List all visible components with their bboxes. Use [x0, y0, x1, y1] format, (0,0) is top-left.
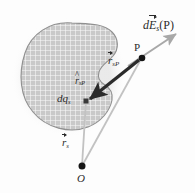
vector-arrow-icon [149, 15, 156, 16]
separation-vector-r: r [108, 54, 112, 66]
vector-arrow-icon [62, 134, 66, 135]
origin-label: O [77, 173, 85, 184]
physics-figure: dEs(P) P rsP ^rsP dqs rs O [0, 0, 195, 193]
source-position-r: r [62, 136, 66, 148]
point-P-label: P [134, 42, 140, 53]
charge-element-subscript: s [68, 98, 71, 105]
separation-vector-r-with-arrow: r [108, 55, 112, 66]
vector-arrow-icon [108, 52, 112, 53]
field-vector-E-with-arrow: E [149, 19, 156, 31]
unit-vector-r-with-hat: ^r [75, 76, 79, 86]
separation-vector-subscript: sP [112, 60, 119, 67]
source-position-r-with-arrow: r [62, 137, 66, 148]
origin-marker [79, 163, 86, 170]
field-vector-argument: (P) [159, 18, 174, 32]
unit-vector-subscript: sP [79, 79, 85, 86]
field-vector-label: dEs(P) [143, 19, 174, 32]
field-vector-E: E [149, 18, 156, 32]
point-P-marker [139, 55, 146, 62]
separation-vector-label: rsP [108, 55, 119, 67]
source-position-subscript: s [66, 142, 69, 149]
source-position-vector-label: rs [62, 137, 69, 149]
charge-element-label: dqs [57, 93, 71, 105]
charge-element-marker [84, 99, 89, 104]
unit-vector-label: ^rsP [75, 76, 85, 87]
hat-icon: ^ [75, 71, 79, 81]
